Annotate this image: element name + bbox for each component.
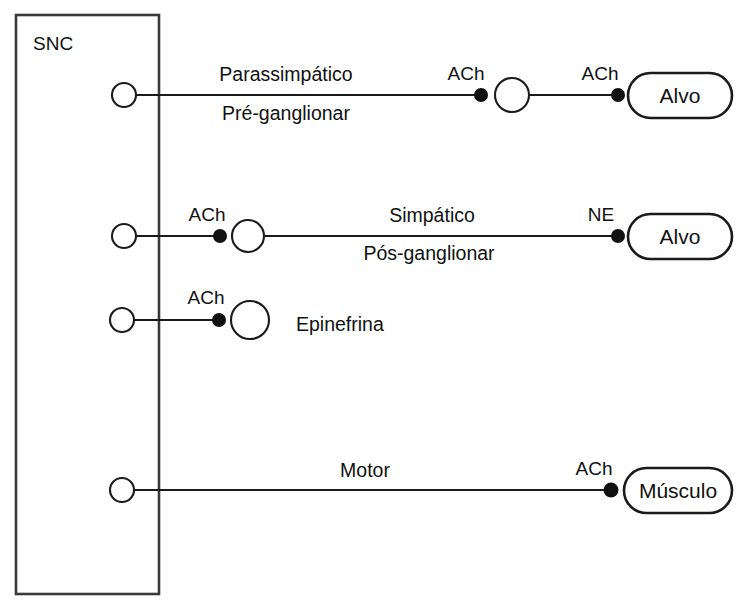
pathway-label-motor: Motor <box>340 459 390 481</box>
diagram-canvas: SNC Alvo Parassimpático Pré-ganglionar A… <box>0 0 746 609</box>
cns-neuron-soma-parasympathetic <box>112 83 136 107</box>
synapse-dot-ganglion-sympathetic <box>213 229 227 243</box>
ganglion-neuron-sympathetic <box>232 220 264 252</box>
neurotransmitter-label-parasympathetic-ganglion: ACh <box>448 63 485 84</box>
target-label-parasympathetic: Alvo <box>660 84 701 107</box>
cns-box-label: SNC <box>33 33 73 54</box>
neurotransmitter-label-parasympathetic-target: ACh <box>582 63 619 84</box>
synapse-dot-neuromuscular-junction <box>604 483 619 498</box>
cns-box <box>16 15 159 594</box>
target-label-muscle: Músculo <box>639 479 717 502</box>
synapse-dot-ganglion-parasympathetic <box>474 88 488 102</box>
neurotransmitter-label-sympathetic-target: NE <box>588 204 614 225</box>
pathway-label-parasympathetic-line2: Pré-ganglionar <box>222 102 350 124</box>
target-label-sympathetic: Alvo <box>660 225 701 248</box>
efferent-pathways-diagram: SNC Alvo Parassimpático Pré-ganglionar A… <box>0 0 746 609</box>
pathway-label-sympathetic-line2: Pós-ganglionar <box>363 242 495 264</box>
cns-neuron-soma-adrenal <box>110 308 134 332</box>
neurotransmitter-label-adrenal: ACh <box>188 287 225 308</box>
neurotransmitter-label-motor: ACh <box>576 458 613 479</box>
pathway-parasympathetic: Alvo Parassimpático Pré-ganglionar ACh A… <box>112 63 732 124</box>
pathway-somatic-motor: Músculo Motor ACh <box>110 458 732 513</box>
synapse-dot-adrenal <box>212 313 226 327</box>
pathway-label-parasympathetic-line1: Parassimpático <box>219 63 352 85</box>
cns-neuron-soma-sympathetic <box>112 224 136 248</box>
pathway-sympathetic: Alvo Simpático Pós-ganglionar ACh NE <box>112 204 732 264</box>
neurotransmitter-label-sympathetic-ganglion: ACh <box>189 204 226 225</box>
synapse-dot-target-parasympathetic <box>611 88 625 102</box>
pathway-label-sympathetic-line1: Simpático <box>389 204 475 226</box>
cns-neuron-soma-motor <box>110 478 134 502</box>
ganglion-neuron-parasympathetic <box>495 78 529 112</box>
synapse-dot-target-sympathetic <box>611 229 625 243</box>
hormone-label-epinefrina: Epinefrina <box>296 313 384 335</box>
chromaffin-cell-adrenal <box>231 301 269 339</box>
